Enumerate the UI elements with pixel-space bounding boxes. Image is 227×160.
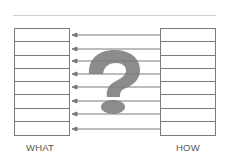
how-label: HOW [176,142,200,153]
what-label: WHAT [26,142,54,153]
connector-arrows [0,0,227,160]
question-mark-icon [89,50,140,114]
